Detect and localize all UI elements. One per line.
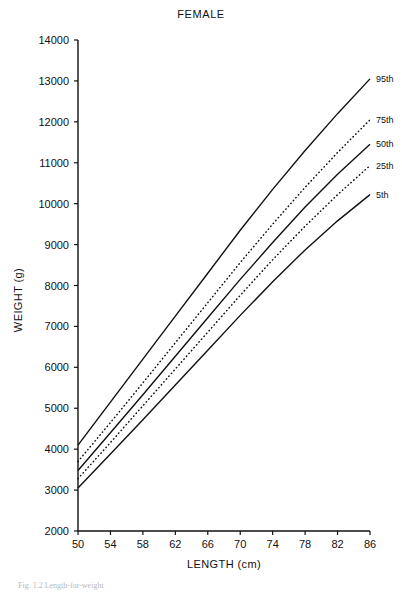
y-axis-tick-label: 4000 — [45, 443, 69, 455]
chart-series-labels: 95th75th50th25th5th — [376, 74, 394, 200]
x-axis-tick-label: 86 — [364, 538, 376, 550]
y-axis-tick-label: 5000 — [45, 402, 69, 414]
x-axis-tick-label: 54 — [104, 538, 116, 550]
series-line-25th — [78, 166, 370, 479]
y-axis-tick-label: 12000 — [38, 116, 69, 128]
y-axis-title: WEIGHT (g) — [12, 268, 24, 332]
series-label-75th: 75th — [376, 115, 394, 125]
chart-axes — [78, 40, 370, 531]
series-label-50th: 50th — [376, 139, 394, 149]
x-axis-tick-label: 66 — [202, 538, 214, 550]
series-line-95th — [78, 79, 370, 445]
y-axis-tick-label: 8000 — [45, 280, 69, 292]
x-axis-tick-label: 50 — [72, 538, 84, 550]
series-line-50th — [78, 144, 370, 470]
x-axis-tick-label: 62 — [169, 538, 181, 550]
x-axis-tick-label: 74 — [267, 538, 279, 550]
x-axis-tick-label: 78 — [299, 538, 311, 550]
y-axis-tick-label: 2000 — [45, 525, 69, 537]
x-axis-tick-label: 70 — [234, 538, 246, 550]
chart-series-group — [78, 79, 370, 488]
x-axis-ticks: 50545862667074788286 — [72, 531, 376, 550]
series-label-5th: 5th — [376, 190, 389, 200]
series-label-95th: 95th — [376, 74, 394, 84]
y-axis-tick-label: 14000 — [38, 34, 69, 46]
y-axis-tick-label: 6000 — [45, 361, 69, 373]
y-axis-tick-label: 3000 — [45, 484, 69, 496]
y-axis-tick-label: 10000 — [38, 198, 69, 210]
y-axis-ticks: 2000300040005000600070008000900010000110… — [38, 34, 78, 537]
chart-container: FEMALE 200030004000500060007000800090001… — [0, 0, 402, 592]
series-line-75th — [78, 120, 370, 462]
y-axis-tick-label: 13000 — [38, 75, 69, 87]
series-label-25th: 25th — [376, 161, 394, 171]
figure-caption: Fig. 1.2 Length-for-weight — [18, 581, 248, 591]
chart-plot-area: 2000300040005000600070008000900010000110… — [0, 0, 402, 592]
x-axis-tick-label: 58 — [137, 538, 149, 550]
x-axis-title: LENGTH (cm) — [187, 558, 261, 570]
series-line-5th — [78, 195, 370, 488]
y-axis-tick-label: 7000 — [45, 320, 69, 332]
x-axis-tick-label: 82 — [331, 538, 343, 550]
y-axis-tick-label: 9000 — [45, 239, 69, 251]
y-axis-tick-label: 11000 — [39, 157, 69, 169]
